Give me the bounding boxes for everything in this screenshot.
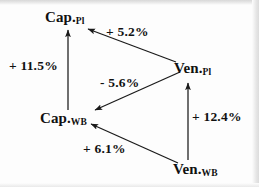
node-cap-wb: Cap.WB xyxy=(40,111,87,126)
node-cap-pl-base: Cap. xyxy=(45,9,76,25)
node-ven-pl: Ven.Pl xyxy=(174,61,211,76)
edge-label-ven-pl-to-cap-pl: + 5.2% xyxy=(106,25,149,39)
edge-label-ven-pl-to-cap-wb: - 5.6% xyxy=(100,76,139,90)
node-ven-pl-base: Ven. xyxy=(174,60,203,76)
node-ven-wb: Ven.WB xyxy=(173,162,218,177)
node-cap-wb-base: Cap. xyxy=(40,110,71,126)
edge-label-ven-wb-to-ven-pl: + 12.4% xyxy=(192,110,242,124)
node-cap-pl: Cap.Pl xyxy=(45,10,85,25)
node-cap-pl-subscript: Pl xyxy=(76,16,85,26)
edge-label-ven-wb-to-cap-wb: + 6.1% xyxy=(83,142,126,156)
node-ven-wb-base: Ven. xyxy=(173,161,202,177)
node-cap-wb-subscript: WB xyxy=(71,117,87,127)
edge-label-cap-wb-to-cap-pl: + 11.5% xyxy=(9,59,58,73)
node-ven-pl-subscript: Pl xyxy=(203,67,212,77)
node-ven-wb-subscript: WB xyxy=(202,168,218,178)
diagram-canvas: Cap.Pl Cap.WB Ven.Pl Ven.WB + 11.5% + 5.… xyxy=(0,0,259,187)
